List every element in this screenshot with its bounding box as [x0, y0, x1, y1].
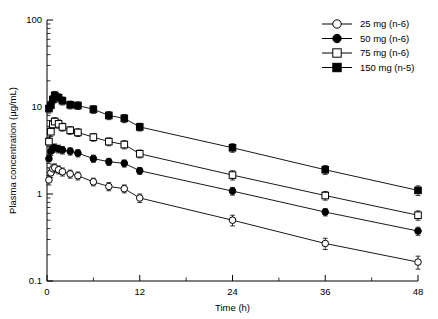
x-tick-label: 48	[413, 286, 424, 297]
data-point-open-circle	[415, 259, 422, 266]
data-point-open-square	[75, 129, 82, 136]
data-point-filled-square	[59, 97, 66, 104]
data-point-filled-square	[322, 166, 329, 173]
x-tick-label: 24	[227, 286, 238, 297]
data-point-filled-square	[229, 144, 236, 151]
data-point-open-circle	[90, 179, 97, 186]
data-point-open-square	[229, 172, 236, 179]
data-point-open-square	[415, 212, 422, 219]
data-point-open-circle	[121, 185, 128, 192]
y-tick-label: 100	[26, 14, 42, 25]
data-point-filled-circle	[121, 160, 128, 167]
data-point-filled-square	[136, 124, 143, 131]
data-point-open-circle	[59, 168, 66, 175]
error-bars	[47, 118, 421, 221]
data-point-filled-square	[121, 115, 128, 122]
data-point-open-square	[106, 138, 113, 145]
data-point-open-circle	[333, 20, 341, 28]
data-point-open-square	[59, 124, 66, 131]
legend-label: 75 mg (n-6)	[360, 47, 409, 58]
legend-label: 25 mg (n-6)	[360, 18, 409, 29]
data-point-filled-circle	[46, 155, 53, 162]
data-point-open-square	[136, 150, 143, 157]
x-tick-label: 0	[44, 286, 49, 297]
data-point-open-circle	[136, 195, 143, 202]
legend-label: 50 mg (n-6)	[360, 33, 409, 44]
data-point-open-circle	[322, 240, 329, 247]
legend-label: 150 mg (n-5)	[360, 62, 414, 73]
data-point-open-square	[46, 138, 53, 145]
legend-item-0[interactable]: 25 mg (n-6)	[322, 18, 409, 29]
data-point-filled-circle	[322, 209, 329, 216]
data-point-open-circle	[106, 183, 113, 190]
x-tick-label: 12	[134, 286, 145, 297]
data-point-open-square	[67, 127, 74, 134]
y-tick-label: 10	[31, 101, 42, 112]
y-axis-title: Plasma concentration (µg/mL)	[7, 87, 18, 214]
series-line	[49, 122, 418, 216]
x-ticks: 012243648	[44, 275, 423, 297]
y-tick-label: 0.1	[29, 275, 42, 286]
data-point-filled-square	[106, 112, 113, 119]
data-point-filled-circle	[333, 34, 341, 42]
data-point-filled-circle	[75, 150, 82, 157]
data-point-open-circle	[75, 172, 82, 179]
data-point-filled-circle	[229, 188, 236, 195]
data-point-filled-circle	[90, 155, 97, 162]
data-point-open-circle	[67, 171, 74, 178]
data-point-open-square	[322, 192, 329, 199]
data-point-filled-circle	[415, 228, 422, 235]
legend-item-1[interactable]: 50 mg (n-6)	[322, 33, 409, 44]
x-tick-label: 36	[320, 286, 331, 297]
legend: 25 mg (n-6)50 mg (n-6)75 mg (n-6)150 mg …	[322, 18, 414, 73]
data-point-filled-circle	[106, 158, 113, 165]
y-tick-label: 1	[37, 188, 42, 199]
data-point-filled-circle	[59, 147, 66, 154]
data-point-filled-square	[415, 187, 422, 194]
legend-item-2[interactable]: 75 mg (n-6)	[322, 47, 409, 58]
data-point-filled-circle	[136, 167, 143, 174]
pk-concentration-time-chart: 0.1110100012243648Time (h)Plasma concent…	[0, 0, 438, 319]
data-point-filled-circle	[67, 148, 74, 155]
data-point-open-circle	[229, 217, 236, 224]
data-point-filled-square	[333, 63, 341, 71]
data-point-filled-square	[75, 102, 82, 109]
legend-item-3[interactable]: 150 mg (n-5)	[322, 62, 414, 73]
data-point-filled-square	[90, 106, 97, 113]
data-point-open-square	[333, 49, 341, 57]
data-point-open-square	[121, 141, 128, 148]
chart-canvas: 0.1110100012243648Time (h)Plasma concent…	[0, 0, 438, 319]
data-point-open-square	[48, 128, 55, 135]
x-axis-title: Time (h)	[215, 302, 250, 313]
series-75mg	[46, 118, 422, 221]
data-point-open-circle	[46, 177, 53, 184]
data-point-open-square	[90, 134, 97, 141]
markers	[46, 118, 422, 218]
data-point-filled-square	[67, 101, 74, 108]
